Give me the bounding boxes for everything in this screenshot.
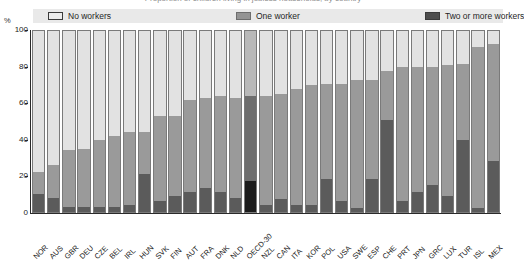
x-axis-tick-label: MEX <box>488 244 505 261</box>
bar-segment-one <box>260 96 271 205</box>
stacked-bar[interactable] <box>471 30 484 213</box>
bar-segment-two <box>366 179 377 212</box>
bar-segment-no <box>457 31 468 64</box>
bar-segment-one <box>48 165 59 198</box>
stacked-bar[interactable] <box>108 30 121 213</box>
stacked-bar[interactable] <box>350 30 363 213</box>
bar-slot <box>32 30 45 213</box>
bar-slot <box>93 30 106 213</box>
stacked-bar[interactable] <box>153 30 166 213</box>
stacked-bar[interactable] <box>365 30 378 213</box>
bar-segment-no <box>472 31 483 47</box>
bar-segment-no <box>169 31 180 116</box>
bar-segment-one <box>154 116 165 201</box>
legend-item-one-worker: One worker <box>236 11 300 21</box>
bar-segment-one <box>200 98 211 189</box>
stacked-bar[interactable] <box>199 30 212 213</box>
bar-segment-one <box>291 89 302 205</box>
stacked-bar[interactable] <box>244 30 257 213</box>
stacked-bar[interactable] <box>274 30 287 213</box>
stacked-bar[interactable] <box>380 30 393 213</box>
bar-segment-two <box>427 185 438 212</box>
bar-segment-two <box>321 179 332 212</box>
stacked-bar[interactable] <box>77 30 90 213</box>
stacked-bar[interactable] <box>396 30 409 213</box>
stacked-bar[interactable] <box>487 30 500 213</box>
bar-slot <box>244 30 257 213</box>
bar-slot <box>426 30 439 213</box>
y-axis-tick-mark <box>25 176 28 177</box>
bar-segment-no <box>63 31 74 150</box>
bar-slot <box>77 30 90 213</box>
y-axis-tick-label: 0 <box>6 209 28 216</box>
bar-segment-no <box>291 31 302 89</box>
stacked-bar[interactable] <box>259 30 272 213</box>
bar-segment-no <box>260 31 271 96</box>
stacked-bar[interactable] <box>168 30 181 213</box>
legend-item-two-or-more-workers: Two or more workers <box>425 11 524 21</box>
stacked-bar[interactable] <box>335 30 348 213</box>
stacked-bar[interactable] <box>456 30 469 213</box>
stacked-bar[interactable] <box>229 30 242 213</box>
stacked-bar[interactable] <box>183 30 196 213</box>
bar-segment-one <box>63 150 74 206</box>
x-axis-tick-label: BEL <box>108 245 124 261</box>
bar-slot <box>229 30 242 213</box>
bar-segment-no <box>78 31 89 149</box>
plot-area <box>30 30 501 214</box>
stacked-bar[interactable] <box>123 30 136 213</box>
bar-segment-one <box>184 100 195 192</box>
bar-segment-one <box>215 96 226 192</box>
stacked-bar[interactable] <box>32 30 45 213</box>
bar-segment-two <box>109 207 120 212</box>
stacked-bar[interactable] <box>320 30 333 213</box>
stacked-bar[interactable] <box>138 30 151 213</box>
bar-segment-no <box>109 31 120 136</box>
bar-segment-one <box>306 85 317 204</box>
x-axis-tick-label: USA <box>336 244 353 261</box>
stacked-bar[interactable] <box>441 30 454 213</box>
bar-segment-no <box>184 31 195 100</box>
bar-segment-no <box>139 31 150 132</box>
bar-segment-two <box>442 196 453 212</box>
stacked-bar[interactable] <box>62 30 75 213</box>
bar-segment-two <box>412 192 423 212</box>
bar-slot <box>168 30 181 213</box>
stacked-bar[interactable] <box>411 30 424 213</box>
bar-segment-two <box>33 194 44 212</box>
x-axis-labels: NORAUSGBRDEUCZEBELIRLHUNSVKFINAUTFRADNKN… <box>30 215 500 261</box>
legend-swatch-one-worker-icon <box>236 12 251 20</box>
bar-segment-no <box>200 31 211 98</box>
bar-segment-two <box>336 201 347 212</box>
bar-segment-one <box>488 44 499 162</box>
bar-slot <box>380 30 393 213</box>
bar-slot <box>47 30 60 213</box>
bar-slot <box>123 30 136 213</box>
stacked-bar[interactable] <box>290 30 303 213</box>
stacked-bar[interactable] <box>214 30 227 213</box>
bar-segment-no <box>94 31 105 140</box>
bar-segment-no <box>48 31 59 165</box>
y-axis-tick-mark <box>25 103 28 104</box>
bar-segment-no <box>154 31 165 116</box>
bar-segment-no <box>215 31 226 96</box>
stacked-bar[interactable] <box>47 30 60 213</box>
bar-segment-two <box>200 188 211 212</box>
bar-slot <box>487 30 500 213</box>
bar-segment-two <box>78 207 89 212</box>
stacked-bar[interactable] <box>426 30 439 213</box>
x-axis-tick-label: TUR <box>457 244 474 261</box>
stacked-bar[interactable] <box>305 30 318 213</box>
legend-label-one-worker: One worker <box>256 11 300 21</box>
x-axis-tick-label: POL <box>321 245 337 261</box>
bar-slot <box>365 30 378 213</box>
x-axis-tick-label: NOR <box>33 244 50 261</box>
bar-slot <box>350 30 363 213</box>
bar-segment-no <box>488 31 499 44</box>
bar-segment-no <box>336 31 347 83</box>
bar-segment-one <box>275 94 286 199</box>
bar-segment-no <box>381 31 392 71</box>
stacked-bar[interactable] <box>93 30 106 213</box>
bar-segment-two <box>169 196 180 212</box>
bar-slot <box>274 30 287 213</box>
